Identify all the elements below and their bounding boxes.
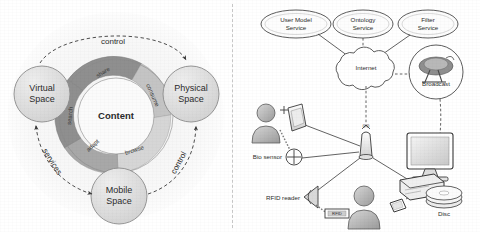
- panel-divider: [232, 4, 233, 228]
- bio-sensor-label: Bio sensor: [253, 153, 282, 160]
- mobile-space-node[interactable]: Mobile Space: [91, 168, 147, 224]
- service-node-ontology[interactable]: Ontology Service: [333, 10, 393, 38]
- virtual-space-node[interactable]: Virtual Space: [14, 66, 70, 122]
- broadcast-label: Broadcast: [422, 80, 450, 87]
- service-label-filter-line2: Service: [418, 24, 439, 31]
- figure-canvas: share consume browse adapt search Conten…: [0, 0, 480, 232]
- left-diagram-panel: share consume browse adapt search Conten…: [0, 0, 232, 232]
- service-label-ontology-line2: Service: [353, 24, 374, 31]
- person-top-node: [252, 104, 280, 143]
- service-label-user-model-line1: User Model: [280, 16, 312, 23]
- rfid-reader-node[interactable]: RFID reader: [266, 186, 328, 214]
- service-node-filter[interactable]: Filter Service: [398, 10, 458, 38]
- right-diagram-panel: User Model Service Ontology Service Filt…: [240, 0, 480, 232]
- rfid-tag-node: RFID: [325, 209, 349, 218]
- mobile-space-label-line2: Space: [106, 196, 132, 206]
- ubiquitous-service-architecture-svg: User Model Service Ontology Service Filt…: [240, 0, 480, 232]
- service-label-filter-line1: Filter: [421, 16, 435, 23]
- service-label-ontology-line1: Ontology: [351, 16, 377, 23]
- access-point-signal-icon: ((•)): [362, 123, 370, 128]
- disc-label: Disc: [438, 210, 450, 217]
- access-point-links: [302, 125, 412, 190]
- pda-device-node[interactable]: [280, 104, 306, 131]
- virtual-space-label-line2: Space: [29, 94, 55, 104]
- rfid-reader-label: RFID reader: [266, 194, 300, 201]
- access-point-node[interactable]: ((•)): [359, 123, 373, 160]
- physical-space-node[interactable]: Physical Space: [163, 66, 219, 122]
- mobile-space-label-line1: Mobile: [106, 185, 133, 195]
- person-bottom-node: [348, 186, 380, 229]
- physical-space-label-line1: Physical: [174, 83, 208, 93]
- rfid-tag-label: RFID: [332, 211, 342, 216]
- disc-stack-node[interactable]: Disc: [426, 186, 462, 217]
- desktop-computer-node[interactable]: [407, 133, 453, 181]
- bio-sensor-signal: [280, 130, 290, 150]
- content-space-cycle-svg: share consume browse adapt search Conten…: [0, 0, 232, 232]
- arrow-label-control-top: control: [101, 37, 125, 46]
- content-center-label: Content: [98, 110, 135, 121]
- internet-cloud-label: Internet: [356, 64, 377, 71]
- virtual-space-label-line1: Virtual: [29, 83, 54, 93]
- service-label-user-model-line2: Service: [286, 24, 307, 31]
- broadcast-node[interactable]: Broadcast: [409, 45, 463, 99]
- service-node-user-model[interactable]: User Model Service: [261, 10, 331, 38]
- physical-space-label-line2: Space: [178, 94, 204, 104]
